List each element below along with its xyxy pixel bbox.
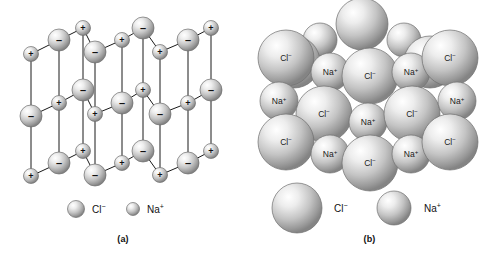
chloride-ion-sphere bbox=[342, 48, 398, 104]
chloride-ion-sphere bbox=[48, 152, 70, 174]
legend-entry-chloride: Cl− bbox=[272, 183, 348, 233]
lattice-sodium-ion: + bbox=[88, 107, 103, 122]
chloride-ion-sphere bbox=[72, 79, 94, 101]
panel-a-legend: Cl−Na+ bbox=[68, 201, 164, 218]
panel-b-space-filling: Cl−Na+Cl−Na+Cl−Na+Cl−Na+Cl−Na+Cl−Na+Cl−N… bbox=[246, 0, 493, 263]
chloride-ion-sphere bbox=[177, 152, 199, 174]
legend-chloride-sphere bbox=[68, 201, 85, 218]
panel-a-caption: (a) bbox=[0, 234, 246, 244]
lattice-bond bbox=[104, 165, 117, 171]
lattice-sodium-ion: + bbox=[24, 47, 39, 62]
lattice-chloride-ion: – bbox=[48, 152, 70, 174]
lattice-bond bbox=[169, 105, 183, 110]
lattice-sodium-ion: + bbox=[76, 144, 91, 159]
lattice-sodium-ion: + bbox=[115, 33, 130, 48]
lattice-chloride-ion: – bbox=[84, 41, 106, 63]
cluster-chloride-ion: Cl− bbox=[258, 30, 314, 86]
legend-label: Na+ bbox=[147, 203, 164, 215]
sodium-ion-sphere bbox=[115, 156, 130, 171]
lattice-bond bbox=[166, 167, 180, 173]
sodium-ion-sphere bbox=[153, 45, 168, 60]
cluster-sodium-ion: Na+ bbox=[260, 82, 298, 120]
sodium-ion-sphere bbox=[88, 107, 103, 122]
lattice-sodium-ion: + bbox=[24, 169, 39, 184]
chloride-ion-sphere bbox=[20, 105, 42, 127]
lattice-chloride-ion: – bbox=[72, 79, 94, 101]
chloride-ion-sphere bbox=[336, 0, 388, 50]
cluster-chloride-ion bbox=[336, 0, 388, 50]
lattice-bond bbox=[40, 106, 54, 112]
lattice-bond bbox=[146, 95, 154, 106]
lattice-bond bbox=[36, 44, 50, 51]
chloride-ion-sphere bbox=[84, 164, 106, 186]
lattice-chloride-ion: – bbox=[20, 105, 42, 127]
lattice-sodium-ion: + bbox=[76, 21, 91, 36]
legend-label: Na+ bbox=[424, 202, 441, 214]
lattice-bond bbox=[101, 107, 114, 112]
lattice-chloride-ion: – bbox=[177, 29, 199, 51]
lattice-chloride-ion: – bbox=[111, 92, 133, 114]
lattice-bond bbox=[166, 44, 180, 50]
lattice-sodium-ion: + bbox=[153, 45, 168, 60]
legend-chloride-sphere bbox=[272, 183, 322, 233]
lattice-chloride-ion: – bbox=[84, 164, 106, 186]
sodium-ion-sphere bbox=[24, 169, 39, 184]
cluster-chloride-ion: Cl− bbox=[258, 114, 314, 170]
lattice-chloride-ion: – bbox=[132, 140, 154, 162]
legend-entry-chloride: Cl− bbox=[68, 201, 106, 218]
legend-sodium-sphere bbox=[127, 203, 140, 216]
cluster-sodium-ion: Na+ bbox=[438, 82, 476, 120]
lattice-chloride-ion: – bbox=[132, 17, 154, 39]
lattice-chloride-ion: – bbox=[149, 103, 171, 125]
sodium-ion-sphere bbox=[76, 144, 91, 159]
chloride-ion-sphere bbox=[111, 92, 133, 114]
panel-a-ball-and-stick: +–+–+–+–+–+–+–+–+–+–+–+–+–+ Cl−Na+ (a) bbox=[0, 0, 246, 263]
panel-b-legend: Cl−Na+ bbox=[272, 183, 441, 233]
sodium-ion-sphere bbox=[153, 168, 168, 183]
chloride-ion-sphere bbox=[132, 140, 154, 162]
lattice-ion-group: +–+–+–+–+–+–+–+–+–+–+–+–+–+ bbox=[20, 17, 222, 186]
chloride-ion-sphere bbox=[258, 114, 314, 170]
lattice-bond bbox=[148, 159, 156, 170]
panel-b-scene: Cl−Na+Cl−Na+Cl−Na+Cl−Na+Cl−Na+Cl−Na+Cl−N… bbox=[246, 0, 493, 263]
sodium-ion-sphere bbox=[181, 96, 196, 111]
sodium-ion-sphere bbox=[52, 96, 67, 111]
lattice-sodium-ion: + bbox=[153, 168, 168, 183]
chloride-ion-sphere bbox=[422, 114, 478, 170]
chloride-ion-sphere bbox=[177, 29, 199, 51]
lattice-bond bbox=[104, 42, 117, 48]
sodium-ion-sphere bbox=[260, 82, 298, 120]
lattice-sodium-ion: + bbox=[181, 96, 196, 111]
legend-label: Cl− bbox=[92, 203, 106, 215]
lattice-chloride-ion: – bbox=[200, 79, 222, 101]
sodium-ion-sphere bbox=[115, 33, 130, 48]
chloride-ion-sphere bbox=[200, 79, 222, 101]
cluster-front-layer: Cl−Na+Cl−Na+Cl−Na+Cl−Na+Cl−Na+Cl−Na+Cl−N… bbox=[258, 30, 478, 191]
chloride-ion-sphere bbox=[422, 30, 478, 86]
panel-a-scene: +–+–+–+–+–+–+–+–+–+–+–+–+–+ Cl−Na+ bbox=[0, 0, 246, 263]
lattice-bond bbox=[36, 167, 50, 173]
lattice-chloride-ion: – bbox=[177, 152, 199, 174]
cluster-chloride-ion: Cl− bbox=[342, 135, 398, 191]
lattice-sodium-ion: + bbox=[115, 156, 130, 171]
cluster-chloride-ion: Cl− bbox=[342, 48, 398, 104]
cluster-chloride-ion: Cl− bbox=[422, 30, 478, 86]
legend-entry-sodium: Na+ bbox=[127, 203, 164, 216]
sodium-ion-sphere bbox=[204, 21, 219, 36]
chloride-ion-sphere bbox=[84, 41, 106, 63]
lattice-sodium-ion: + bbox=[204, 144, 219, 159]
sodium-ion-sphere bbox=[24, 47, 39, 62]
lattice-sodium-ion: + bbox=[52, 96, 67, 111]
lattice-sodium-ion: + bbox=[204, 21, 219, 36]
legend-label: Cl− bbox=[334, 202, 348, 214]
lattice-sodium-ion: + bbox=[136, 83, 151, 98]
chloride-ion-sphere bbox=[342, 135, 398, 191]
chloride-ion-sphere bbox=[48, 29, 70, 51]
sodium-ion-sphere bbox=[438, 82, 476, 120]
legend-sodium-sphere bbox=[377, 191, 411, 225]
panel-b-caption: (b) bbox=[246, 234, 493, 244]
chloride-ion-sphere bbox=[132, 17, 154, 39]
lattice-chloride-ion: – bbox=[48, 29, 70, 51]
chloride-ion-sphere bbox=[258, 30, 314, 86]
cluster-chloride-ion: Cl− bbox=[422, 114, 478, 170]
